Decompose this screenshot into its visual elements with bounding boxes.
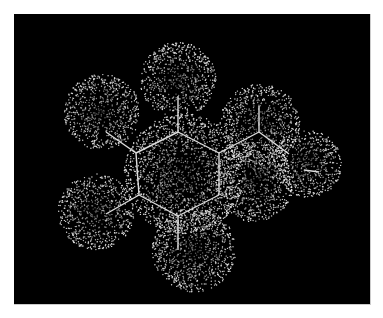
molecule-dot-surface — [14, 14, 370, 304]
molecule-viewport — [14, 14, 371, 305]
